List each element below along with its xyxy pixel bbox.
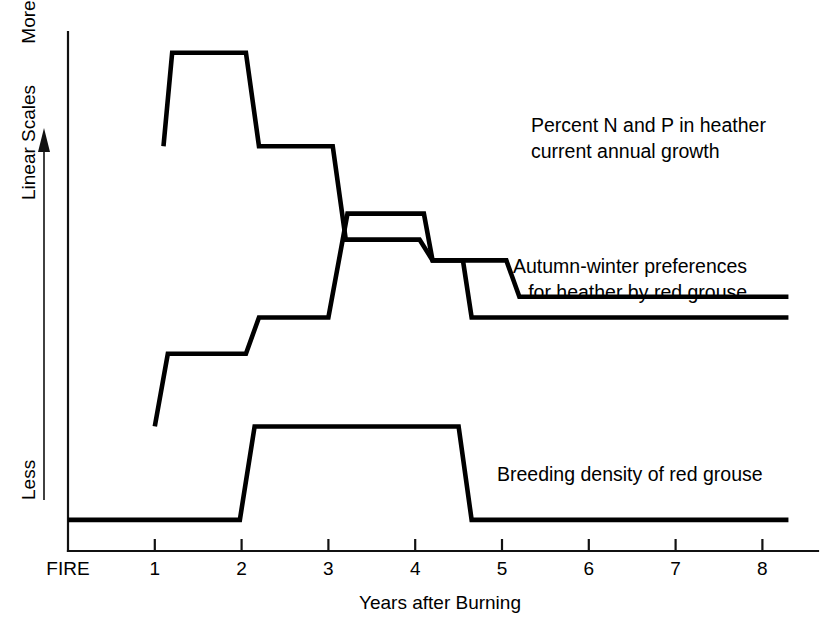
x-axis-tick-label: 1 — [150, 558, 161, 580]
series-label-line-2: for heather by red grouse — [513, 279, 747, 305]
x-axis-ticks — [155, 539, 763, 551]
series-label-line-1: Breeding density of red grouse — [497, 461, 763, 487]
series-label-breeding-density: Breeding density of red grouse — [497, 461, 763, 487]
y-axis-bottom-label: Less — [18, 460, 40, 500]
x-axis-tick-label: FIRE — [46, 558, 89, 580]
series-label-percent-n-p: Percent N and P in heather current annua… — [531, 112, 766, 164]
x-axis-tick-label: 4 — [410, 558, 421, 580]
series-label-line-1: Percent N and P in heather — [531, 112, 766, 138]
x-axis-tick-label: 2 — [236, 558, 247, 580]
chart-plot-area — [0, 0, 826, 632]
series-label-line-1: Autumn-winter preferences — [513, 253, 747, 279]
x-axis-title: Years after Burning — [359, 592, 521, 614]
series-label-autumn-winter: Autumn-winter preferences for heather by… — [513, 253, 747, 305]
y-axis-top-label: More — [18, 0, 40, 43]
series-line-2 — [155, 214, 789, 427]
x-axis-tick-label: 6 — [584, 558, 595, 580]
y-axis-title: Linear Scales — [18, 85, 40, 200]
series-label-line-2: current annual growth — [531, 138, 766, 164]
x-axis-tick-label: 3 — [323, 558, 334, 580]
chart-figure: More Linear Scales Less Years after Burn… — [0, 0, 826, 632]
x-axis-tick-label: 7 — [670, 558, 681, 580]
x-axis-tick-label: 8 — [757, 558, 768, 580]
x-axis-tick-label: 5 — [497, 558, 508, 580]
